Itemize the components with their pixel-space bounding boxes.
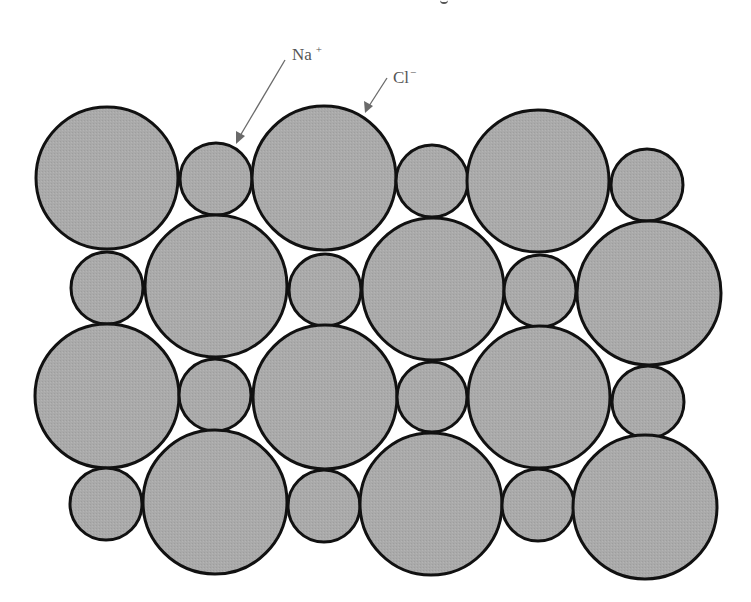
chloride-label-callout: Cl− <box>364 66 416 113</box>
chloride-pointer-arrow <box>369 78 387 106</box>
ion-row-1 <box>36 106 683 252</box>
nacl-lattice-diagram: Na+ Cl− <box>0 0 751 602</box>
ion-row-3 <box>35 324 684 469</box>
sodium-ion <box>288 470 360 542</box>
sodium-ion <box>289 254 361 326</box>
sodium-ion <box>71 252 143 324</box>
chloride-ion <box>468 326 610 468</box>
chloride-ion <box>145 215 287 357</box>
chloride-ion <box>362 218 504 360</box>
sodium-label: Na <box>292 45 312 64</box>
chloride-ion <box>573 435 717 579</box>
sodium-ion <box>397 362 467 432</box>
arrowhead-icon <box>236 131 245 144</box>
sodium-ion <box>396 145 468 217</box>
chloride-ion <box>577 221 721 365</box>
chloride-charge: − <box>410 66 416 78</box>
sodium-ion <box>70 468 142 540</box>
ion-row-2 <box>71 215 721 365</box>
sodium-ion <box>611 149 683 221</box>
chloride-ion <box>467 110 609 252</box>
sodium-ion <box>504 255 576 327</box>
chloride-ion <box>143 430 287 574</box>
sodium-ion <box>180 143 252 215</box>
chloride-ion <box>36 107 178 249</box>
sodium-ion <box>179 359 251 431</box>
svg-text:Na+: Na+ <box>292 43 322 64</box>
sodium-ion <box>612 366 684 438</box>
chloride-ion <box>253 325 397 469</box>
chloride-ion <box>252 106 396 250</box>
sodium-charge: + <box>316 43 322 55</box>
sodium-ion <box>502 469 574 541</box>
chloride-ion <box>35 324 179 468</box>
svg-text:Cl−: Cl− <box>393 66 416 87</box>
chloride-ion <box>360 433 502 575</box>
chloride-label: Cl <box>393 68 409 87</box>
ion-row-4 <box>70 430 717 579</box>
